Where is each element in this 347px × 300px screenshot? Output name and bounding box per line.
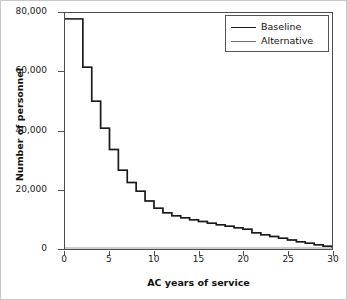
x-axis-label: AC years of service <box>64 277 333 288</box>
x-tick-mark <box>333 251 334 256</box>
legend-swatch-baseline <box>231 27 256 28</box>
y-tick-label: 0 <box>1 244 47 253</box>
x-tick-mark <box>288 251 289 256</box>
series-line-alternative <box>65 19 332 248</box>
x-tick-label: 15 <box>184 255 214 264</box>
chart-legend: Baseline Alternative <box>225 15 329 52</box>
x-tick-label: 5 <box>94 255 124 264</box>
legend-label-baseline: Baseline <box>261 22 301 32</box>
x-tick-mark <box>109 251 110 256</box>
chart-figure: Number of personnel 020,00040,00060,0008… <box>0 0 347 300</box>
series-line-baseline <box>65 19 332 248</box>
x-tick-label: 0 <box>49 255 79 264</box>
x-tick-mark <box>243 251 244 256</box>
x-tick-mark <box>64 251 65 256</box>
x-tick-label: 10 <box>139 255 169 264</box>
x-tick-mark <box>199 251 200 256</box>
x-tick-mark <box>154 251 155 256</box>
y-tick-label: 60,000 <box>1 66 47 75</box>
legend-label-alternative: Alternative <box>261 36 313 46</box>
y-tick-label: 20,000 <box>1 185 47 194</box>
x-tick-label: 25 <box>273 255 303 264</box>
x-tick-label: 20 <box>228 255 258 264</box>
legend-swatch-alternative <box>231 41 256 42</box>
y-tick-label: 40,000 <box>1 126 47 135</box>
y-tick-label: 80,000 <box>1 7 47 16</box>
x-tick-label: 30 <box>318 255 347 264</box>
legend-item-alternative: Alternative <box>231 34 323 48</box>
legend-item-baseline: Baseline <box>231 20 323 34</box>
